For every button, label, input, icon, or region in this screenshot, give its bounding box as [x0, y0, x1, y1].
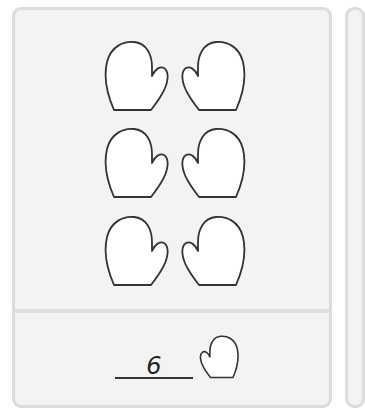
answer-value: 6 [115, 353, 193, 379]
mitten-icon [180, 215, 246, 289]
mitten-icon [104, 215, 170, 289]
mitten-icon [180, 40, 246, 114]
adjacent-card-edge [345, 7, 365, 408]
answer-line [115, 377, 193, 379]
mitten-icon [104, 127, 170, 201]
mitten-count-card: 6 [12, 7, 332, 408]
mitten-icon [199, 335, 239, 380]
mitten-icon [180, 127, 246, 201]
mitten-icon [104, 40, 170, 114]
divider [15, 309, 329, 313]
